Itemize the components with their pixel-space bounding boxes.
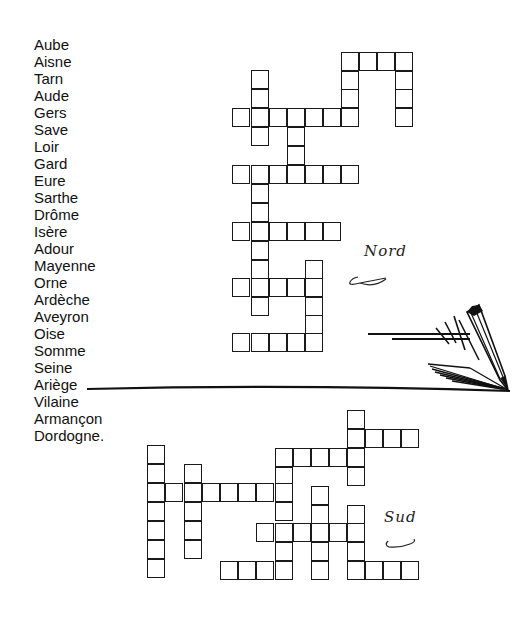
north-arrow-icon (350, 277, 386, 285)
pencil-illustration (0, 0, 532, 630)
south-arrow-icon (386, 539, 414, 547)
divider-line (87, 387, 510, 391)
